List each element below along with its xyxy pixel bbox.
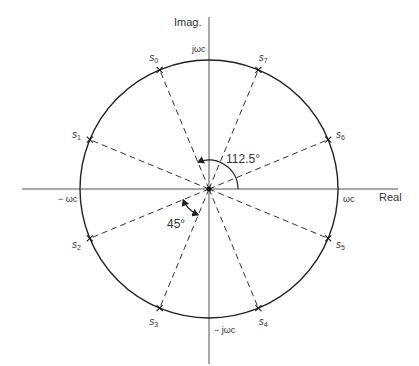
pole-marker-s7 [255,67,261,73]
real-axis-label: Real [379,191,402,203]
neg-real-intercept-label: − ωc [58,194,78,204]
pole-label-s1: s1 [72,129,81,141]
pole-label-s6: s6 [336,129,345,141]
pole-label-s5: s5 [336,239,345,251]
pole-marker-s6 [325,137,331,143]
angle-label-112-5: 112.5° [226,152,260,166]
pos-imag-intercept-label: jωc [191,44,206,54]
angle-arc-45 [183,200,198,215]
pole-label-s0: s0 [149,52,158,64]
pos-real-intercept-label: ωc [343,194,355,204]
pole-label-s2: s2 [72,239,81,251]
pole-marker-s1 [87,137,93,143]
pole-marker-s2 [87,235,93,241]
neg-imag-intercept-label: − jωc [214,325,236,335]
pole-label-s7: s7 [259,52,268,64]
angle-label-45: 45° [167,217,185,231]
pole-marker-s4 [255,305,261,311]
pole-label-s4: s4 [259,316,268,328]
pole-marker-s0 [157,67,163,73]
origin-point [207,187,212,192]
pole-label-s3: s3 [149,316,158,328]
pole-marker-s3 [157,305,163,311]
imag-axis-label: Imag. [174,16,202,28]
pole-marker-s5 [325,235,331,241]
pole-diagram: Imag. Real jωc − jωc − ωc ωc 112.5° 45° … [0,0,419,366]
